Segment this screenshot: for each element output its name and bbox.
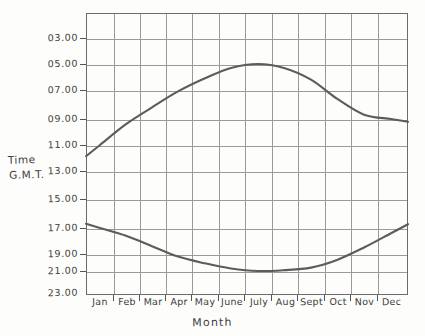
- chart-curves: [0, 0, 425, 336]
- morning-curve-line: [86, 64, 408, 156]
- evening-curve-line: [86, 224, 408, 271]
- chart-page: Time G.M.T. 03.00 05.00 07.00 0: [0, 0, 425, 336]
